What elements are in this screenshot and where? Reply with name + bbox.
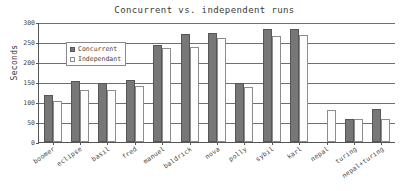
x-label-slot: nepal+turing <box>368 145 395 191</box>
x-label-slot: manuel <box>148 145 175 191</box>
legend-swatch-icon <box>70 47 75 52</box>
bar-group <box>203 23 230 142</box>
bar-groups <box>39 23 395 142</box>
bar-group <box>368 23 395 142</box>
bar-group <box>66 23 93 142</box>
bar <box>235 83 244 142</box>
bar <box>44 95 53 142</box>
x-label-slot: fred <box>120 145 147 191</box>
bar <box>290 29 299 142</box>
x-tick-label: sybil <box>255 145 276 163</box>
x-tick-label: karl <box>285 145 303 161</box>
bar-group <box>121 23 148 142</box>
bar-group <box>258 23 285 142</box>
x-label-slot: boomer <box>38 145 65 191</box>
x-tick-label: boomer <box>32 145 57 166</box>
bar <box>153 45 162 142</box>
bar-group <box>313 23 340 142</box>
chart-legend: Concurrent Independant <box>66 42 126 66</box>
x-label-slot: sybil <box>258 145 285 191</box>
bar <box>244 87 253 142</box>
bar <box>372 109 381 142</box>
y-tick-label: 300 <box>23 19 35 27</box>
bar <box>162 48 171 142</box>
bar <box>208 33 217 142</box>
x-tick-label: nova <box>203 145 221 161</box>
bar <box>181 34 190 142</box>
bar <box>126 80 135 142</box>
bar <box>53 101 62 142</box>
x-axis-labels: boomereclipsebasilfredmanuelbaldricknova… <box>38 145 395 191</box>
bar-group <box>340 23 367 142</box>
bar <box>272 36 281 142</box>
legend-label-independant: Independant <box>78 55 121 63</box>
x-label-slot: eclipse <box>65 145 92 191</box>
y-tick-label: 100 <box>23 99 35 107</box>
bar-group <box>286 23 313 142</box>
y-tick-label: 150 <box>23 79 35 87</box>
bar-group <box>149 23 176 142</box>
y-tick-label: 50 <box>27 119 35 127</box>
y-tick-mark <box>36 143 39 144</box>
y-tick-label: 0 <box>31 139 35 147</box>
chart-title: Concurrent vs. independent runs <box>0 5 409 15</box>
bar <box>299 35 308 142</box>
y-tick-label: 200 <box>23 59 35 67</box>
bar <box>98 83 107 142</box>
bar-group <box>231 23 258 142</box>
bar <box>135 86 144 142</box>
bar <box>71 81 80 142</box>
plot-area: 050100150200250300 <box>38 23 395 143</box>
chart-canvas: Concurrent vs. independent runs Seconds … <box>0 0 409 191</box>
x-label-slot: baldrick <box>175 145 202 191</box>
bar <box>80 90 89 142</box>
x-label-slot: polly <box>230 145 257 191</box>
x-label-slot: basil <box>93 145 120 191</box>
bar <box>327 110 336 142</box>
bar <box>217 38 226 142</box>
bar <box>345 119 354 142</box>
bar <box>190 47 199 142</box>
y-axis-label: Seconds <box>10 33 19 93</box>
bar-group <box>176 23 203 142</box>
legend-item-independant: Independant <box>70 55 121 63</box>
bar-group <box>39 23 66 142</box>
x-tick-label: fred <box>121 145 139 161</box>
x-label-slot: nepal <box>313 145 340 191</box>
x-label-slot: nova <box>203 145 230 191</box>
bar <box>354 119 363 142</box>
legend-swatch-icon <box>70 57 75 62</box>
y-tick-label: 250 <box>23 39 35 47</box>
legend-label-concurrent: Concurrent <box>78 45 117 53</box>
bar <box>263 29 272 142</box>
x-tick-label: nepal <box>310 145 331 163</box>
x-tick-label: polly <box>227 145 248 163</box>
bar <box>107 90 116 142</box>
bar-group <box>94 23 121 142</box>
legend-item-concurrent: Concurrent <box>70 45 121 53</box>
bar <box>381 119 390 142</box>
x-label-slot: karl <box>285 145 312 191</box>
x-tick-label: basil <box>90 145 111 163</box>
